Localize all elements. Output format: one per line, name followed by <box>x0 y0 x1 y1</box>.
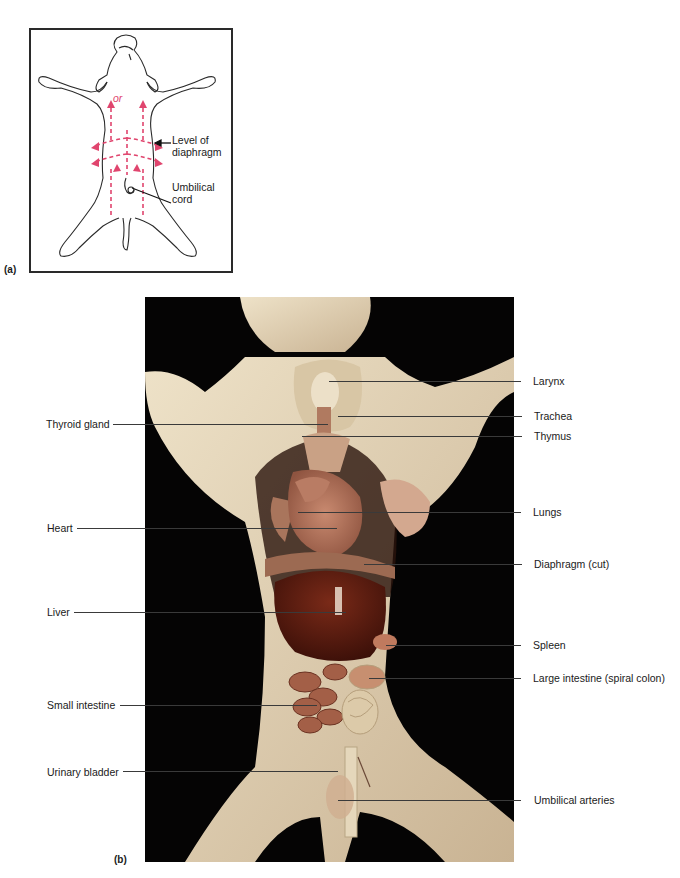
callout-diaphragm-cut: Diaphragm (cut) <box>534 558 609 570</box>
leader-urinary-bladder <box>123 771 338 772</box>
leader-liver <box>74 612 346 613</box>
leader-small-intestine <box>120 705 317 706</box>
leader-diaphragm-cut <box>364 564 522 565</box>
leader-heart <box>77 528 337 529</box>
callout-larynx: Larynx <box>533 375 565 387</box>
callout-umbilical-cord-line1: Umbilical <box>172 181 215 193</box>
callout-umbilical-cord: Umbilical cord <box>172 181 215 205</box>
or-annotation: or <box>113 92 122 104</box>
leader-thyroid-gland <box>113 424 328 425</box>
leader-lungs <box>298 512 521 513</box>
callout-thymus: Thymus <box>534 430 571 442</box>
leader-umbilical-arteries <box>338 800 521 801</box>
callout-spleen: Spleen <box>533 639 566 651</box>
leader-large-intestine <box>369 678 521 679</box>
leader-thymus <box>302 436 522 437</box>
callout-trachea: Trachea <box>534 410 572 422</box>
callout-urinary-bladder: Urinary bladder <box>47 766 119 778</box>
callout-umbilical-cord-line2: cord <box>172 193 215 205</box>
leader-spleen <box>386 645 521 646</box>
panel-a-label: (a) <box>4 264 16 275</box>
panel-b-label: (b) <box>114 854 127 865</box>
leader-larynx <box>329 381 521 382</box>
callout-lungs: Lungs <box>533 506 562 518</box>
callout-liver: Liver <box>47 606 70 618</box>
leader-trachea <box>338 416 522 417</box>
callout-diaphragm-level-line2: diaphragm <box>172 146 222 158</box>
callout-large-intestine: Large intestine (spiral colon) <box>533 672 665 684</box>
callout-thyroid-gland: Thyroid gland <box>46 418 110 430</box>
callout-heart: Heart <box>47 522 73 534</box>
callout-small-intestine: Small intestine <box>47 699 115 711</box>
callout-diaphragm-level-line1: Level of <box>172 134 222 146</box>
callout-umbilical-arteries: Umbilical arteries <box>534 794 615 806</box>
callout-diaphragm-level: Level of diaphragm <box>172 134 222 158</box>
